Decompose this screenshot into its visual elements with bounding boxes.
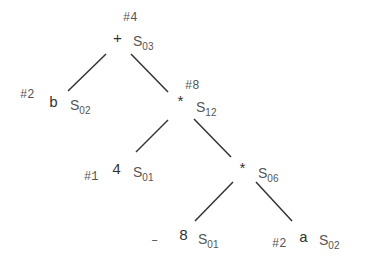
- node-state: S03: [133, 34, 153, 52]
- node-state: S02: [319, 233, 339, 251]
- node-state: S01: [133, 165, 153, 183]
- node-state: S02: [70, 98, 90, 116]
- node-symbol: 4: [112, 163, 121, 178]
- node-symbol: *: [176, 96, 185, 111]
- edge-mul1-mul2: [194, 119, 231, 157]
- node-state: S12: [196, 100, 216, 118]
- node-tag: –: [151, 235, 158, 247]
- node-symbol: a: [299, 231, 308, 246]
- expression-tree-diagram: #4 + S03 #2 b S02 #8 * S12 #1 4 S01 * S0…: [0, 0, 365, 257]
- node-tag: #8: [185, 80, 199, 92]
- node-state: S06: [258, 166, 278, 184]
- edge-root-left: [68, 54, 106, 91]
- node-symbol: +: [113, 32, 122, 47]
- node-tag: #4: [123, 12, 137, 24]
- node-tag: #1: [84, 171, 98, 183]
- node-tag: #2: [272, 238, 286, 250]
- node-state: S01: [198, 232, 218, 250]
- edge-mul1-four: [136, 120, 168, 152]
- node-symbol: *: [238, 163, 247, 178]
- edge-mul2-eight: [195, 182, 233, 221]
- node-symbol: 8: [179, 229, 188, 244]
- edge-mul2-a: [256, 182, 292, 221]
- node-symbol: b: [49, 96, 58, 111]
- tree-edges: [0, 0, 365, 257]
- node-tag: #2: [20, 89, 34, 101]
- edge-root-mul1: [131, 54, 168, 92]
